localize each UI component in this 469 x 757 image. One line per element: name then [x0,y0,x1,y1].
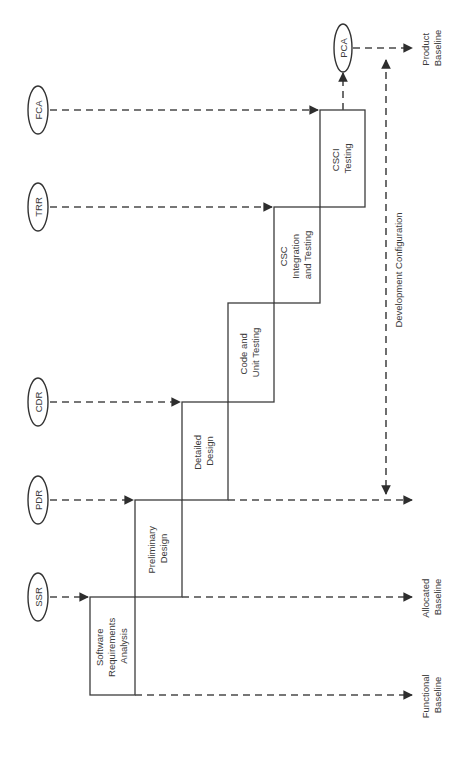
svg-text:CSC Integration an: CSC Integration and Testing [278,231,313,279]
development-configuration-label: Development Configuration [393,212,404,327]
phase-label-line: Design [158,534,169,564]
baseline-label-line: Baseline [432,579,443,615]
phase-label-line: Requirements [106,618,117,677]
phase-label-line: Detailed [192,435,203,470]
phase-preliminary-design: Preliminary Design [135,500,182,597]
phase-label-line: Integration [290,234,301,279]
phase-label-line: Preliminary [146,526,157,574]
svg-text:Software Requirements: Software Requirements Analysis [94,615,129,677]
review-label: TRR [33,197,44,217]
baseline-label-line: Functional [420,674,431,718]
svg-text:Product Baseline: Product Baseline [420,30,443,66]
phase-label-line: Unit Testing [250,328,261,377]
product-baseline: Product Baseline [353,30,443,66]
phase-label-line: Analysis [118,628,129,664]
svg-text:Preliminary Design: Preliminary Design [146,523,169,573]
phase-label-line: Software [94,629,105,667]
review-label: PCA [338,38,349,58]
review-label: SSR [33,587,44,607]
review-label: FCA [33,100,44,120]
review-trr: TRR [28,183,272,231]
review-pca: PCA [334,24,352,110]
waterfall-diagram: Software Requirements Analysis Prelimina… [0,0,469,757]
phase-code-and-unit-testing: Code and Unit Testing [228,303,274,402]
phase-detailed-design: Detailed Design [182,402,228,500]
baseline-label-line: Baseline [432,677,443,713]
review-label: CDR [33,392,44,413]
review-ssr: SSR [28,573,88,621]
phase-label-line: CSCI [330,148,341,171]
allocated-baseline: Allocated Baseline [182,576,443,618]
review-fca: FCA [28,86,318,134]
review-cdr: CDR [28,378,180,426]
phase-label-line: Testing [342,143,353,173]
baseline-label-line: Allocated [420,579,431,618]
phase-label-line: Code and [238,333,249,374]
phase-label-line: Design [204,436,215,466]
phase-software-requirements-analysis: Software Requirements Analysis [90,597,135,695]
functional-baseline: Functional Baseline [135,672,443,718]
phase-label-line: and Testing [302,231,313,279]
phase-label-line: CSC [278,246,289,266]
svg-text:Functional Baseline: Functional Baseline [420,672,443,718]
review-label: PDR [33,490,44,510]
phase-csc-integration-and-testing: CSC Integration and Testing [274,207,320,303]
svg-text:Code and Unit Testing: Code and Unit Testing [238,328,261,377]
svg-text:Allocated Baseline: Allocated Baseline [420,576,443,618]
baseline-label-line: Baseline [432,30,443,66]
svg-text:Detailed Design: Detailed Design [192,432,215,470]
review-pdr: PDR [28,476,133,524]
phase-csci-testing: CSCI Testing [320,110,365,207]
svg-text:CSCI Testing: CSCI Testing [330,143,353,173]
baseline-label-line: Product [420,33,431,66]
